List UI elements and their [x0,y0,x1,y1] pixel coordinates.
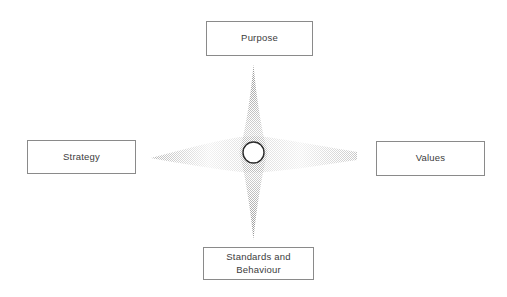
node-values[interactable]: Values [376,141,485,176]
star-vertical-arms [240,64,268,240]
node-standards-and-behaviour-label: Standards and Behaviour [226,251,290,276]
node-purpose-label: Purpose [241,32,278,45]
node-standards-and-behaviour[interactable]: Standards and Behaviour [203,247,314,280]
node-strategy[interactable]: Strategy [27,140,136,174]
diagram-canvas: Purpose Strategy Values Standards and Be… [0,0,507,297]
node-purpose[interactable]: Purpose [206,21,313,56]
center-circle [243,142,264,163]
node-strategy-label: Strategy [63,151,100,164]
star-horizontal-arms [151,136,357,172]
node-values-label: Values [416,152,446,165]
